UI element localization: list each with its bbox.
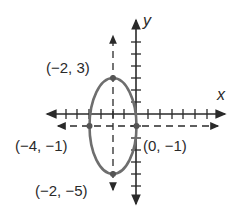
point-left <box>87 123 93 129</box>
point-right <box>134 123 140 129</box>
point-bottom <box>110 171 116 177</box>
label-top-point: (−2, 3) <box>46 60 90 75</box>
ellipse-graph: y x (−2, 3) (−4, −1) (0, −1) (−2, −5) <box>0 0 243 217</box>
point-top <box>110 75 116 81</box>
label-right-point: (0, −1) <box>143 138 187 153</box>
label-left-point: (−4, −1) <box>15 138 68 153</box>
label-bottom-point: (−2, −5) <box>35 183 88 198</box>
x-axis-label: x <box>217 86 225 104</box>
y-axis-label: y <box>143 12 151 30</box>
